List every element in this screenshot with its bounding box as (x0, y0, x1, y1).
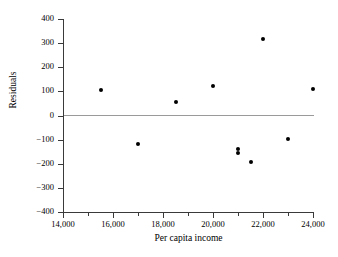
y-axis-tick-label: 0 (50, 111, 54, 120)
x-axis-tick-label: 14,000 (51, 219, 74, 229)
y-axis-tick-label: 400 (41, 14, 54, 23)
x-axis-minor-tick (238, 213, 239, 216)
x-axis-title: Per capita income (63, 232, 314, 244)
plot-area (63, 19, 313, 212)
data-point (99, 88, 103, 92)
x-axis-tick-label: 18,000 (151, 219, 174, 229)
y-axis-tick-label: −100 (36, 135, 54, 144)
x-axis-tick (63, 213, 64, 218)
x-axis-tick-label: 22,000 (251, 219, 274, 229)
x-axis-minor-tick (188, 213, 189, 216)
x-axis-tick (163, 213, 164, 218)
x-axis-tick (113, 213, 114, 218)
x-axis-tick (213, 213, 214, 218)
x-axis-minor-tick (288, 213, 289, 216)
x-axis-tick (313, 213, 314, 218)
data-point (286, 137, 290, 141)
data-point (311, 87, 315, 91)
data-point (136, 142, 140, 146)
data-point (261, 37, 265, 41)
y-axis-tick-label: −200 (36, 159, 54, 168)
x-axis-minor-tick (138, 213, 139, 216)
x-axis-tick (263, 213, 264, 218)
x-axis-tick-label: 24,000 (301, 219, 324, 229)
y-axis-tick-label: −400 (36, 207, 54, 216)
data-point (249, 160, 253, 164)
x-axis-tick-label: 20,000 (201, 219, 224, 229)
residual-plot-figure: 4003002001000−100−200−300−400 14,00016,0… (0, 0, 338, 257)
x-axis-tick-label: 16,000 (101, 219, 124, 229)
y-axis-tick-label: −300 (36, 183, 54, 192)
data-point (236, 151, 240, 155)
data-point (174, 100, 178, 104)
y-axis-tick-label: 200 (41, 62, 54, 71)
data-point (211, 84, 215, 88)
y-axis-tick-label: 300 (41, 38, 54, 47)
y-axis-tick-label: 100 (41, 86, 54, 95)
y-axis-title: Residuals (7, 55, 19, 125)
x-axis-minor-tick (88, 213, 89, 216)
